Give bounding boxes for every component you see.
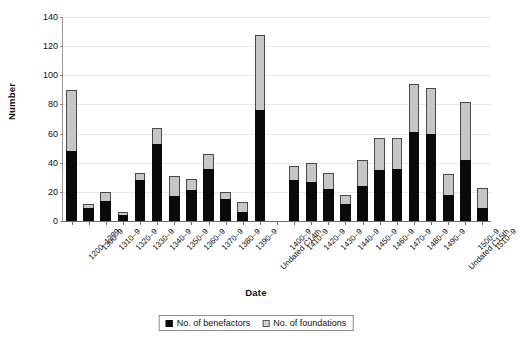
plot-area: 020406080100120140 1200–12991300–91310–9… xyxy=(62,17,491,222)
bar-slot xyxy=(220,17,231,221)
bar-slot xyxy=(306,17,317,221)
x-tick-mark xyxy=(448,221,449,225)
bar-slot xyxy=(289,17,300,221)
stacked-bar xyxy=(186,179,197,221)
stacked-bar xyxy=(306,163,317,221)
bar-segment-benefactors xyxy=(66,151,77,221)
bar-segment-benefactors xyxy=(392,169,403,221)
bar-slot xyxy=(374,17,385,221)
bar-segment-foundations xyxy=(135,173,146,180)
bar-segment-foundations xyxy=(443,174,454,194)
bar-slot xyxy=(203,17,214,221)
stacked-bar xyxy=(237,202,248,221)
bar-segment-benefactors xyxy=(152,144,163,221)
stacked-bar xyxy=(323,173,334,221)
x-tick-mark xyxy=(397,221,398,225)
x-tick-mark xyxy=(243,221,244,225)
bar-segment-foundations xyxy=(255,35,266,111)
bar-slot xyxy=(135,17,146,221)
bar-series-group xyxy=(63,17,491,221)
bar-slot xyxy=(409,17,420,221)
stacked-bar xyxy=(203,154,214,221)
bar-segment-benefactors xyxy=(220,199,231,221)
y-tick-label: 0 xyxy=(53,216,58,226)
x-tick-mark xyxy=(414,221,415,225)
stacked-bar xyxy=(152,128,163,221)
bar-segment-benefactors xyxy=(374,170,385,221)
stacked-bar xyxy=(66,90,77,221)
bar-segment-foundations xyxy=(323,173,334,189)
x-axis-title: Date xyxy=(0,287,512,298)
stacked-bar xyxy=(477,188,488,222)
bar-segment-foundations xyxy=(477,188,488,208)
bar-slot xyxy=(443,17,454,221)
bar-slot xyxy=(392,17,403,221)
bar-segment-benefactors xyxy=(443,195,454,221)
bar-segment-foundations xyxy=(392,138,403,169)
legend-label: No. of foundations xyxy=(273,318,346,328)
bar-segment-foundations xyxy=(409,84,420,132)
stacked-bar xyxy=(169,176,180,221)
x-tick-mark xyxy=(328,221,329,225)
stacked-bar xyxy=(340,195,351,221)
stacked-bar xyxy=(374,138,385,221)
y-tick-label: 80 xyxy=(48,99,58,109)
x-tick-mark xyxy=(89,221,90,225)
x-tick-mark xyxy=(345,221,346,225)
bar-segment-foundations xyxy=(220,192,231,199)
stacked-bar xyxy=(426,88,437,221)
legend-item: No. of benefactors xyxy=(166,318,251,328)
bar-slot xyxy=(100,17,111,221)
legend-swatch-grey xyxy=(262,320,269,327)
bar-segment-benefactors xyxy=(289,180,300,221)
x-tick-mark xyxy=(209,221,210,225)
bar-slot xyxy=(460,17,471,221)
x-tick-mark xyxy=(311,221,312,225)
y-tick-label: 140 xyxy=(43,12,58,22)
bar-slot xyxy=(152,17,163,221)
y-tick-mark xyxy=(60,221,63,222)
bar-slot xyxy=(186,17,197,221)
legend-item: No. of foundations xyxy=(262,318,346,328)
y-tick-label: 100 xyxy=(43,70,58,80)
y-tick-label: 60 xyxy=(48,129,58,139)
legend-label: No. of benefactors xyxy=(177,318,251,328)
bar-segment-benefactors xyxy=(323,189,334,221)
x-tick-mark xyxy=(140,221,141,225)
x-tick-mark xyxy=(226,221,227,225)
bar-slot xyxy=(83,17,94,221)
bar-slot xyxy=(357,17,368,221)
x-tick-mark xyxy=(465,221,466,225)
bar-slot xyxy=(169,17,180,221)
bar-segment-benefactors xyxy=(357,186,368,221)
bar-segment-benefactors xyxy=(255,110,266,221)
bar-slot xyxy=(477,17,488,221)
bar-segment-foundations xyxy=(426,88,437,133)
bar-slot xyxy=(323,17,334,221)
bar-segment-benefactors xyxy=(426,134,437,221)
bar-segment-benefactors xyxy=(186,190,197,221)
chart-legend: No. of benefactorsNo. of foundations xyxy=(159,315,354,331)
bar-segment-foundations xyxy=(186,179,197,191)
stacked-bar xyxy=(255,35,266,222)
x-tick-mark xyxy=(482,221,483,225)
x-tick-mark xyxy=(380,221,381,225)
bar-segment-foundations xyxy=(66,90,77,151)
stacked-bar xyxy=(289,166,300,221)
x-tick-mark xyxy=(294,221,295,225)
bar-segment-benefactors xyxy=(477,208,488,221)
bar-slot xyxy=(272,17,283,221)
x-tick-mark xyxy=(123,221,124,225)
stacked-bar xyxy=(357,160,368,221)
bar-segment-foundations xyxy=(203,154,214,169)
bar-segment-benefactors xyxy=(340,204,351,221)
stacked-bar xyxy=(460,102,471,221)
bar-segment-foundations xyxy=(357,160,368,186)
stacked-bar xyxy=(118,212,129,221)
bar-segment-foundations xyxy=(152,128,163,144)
bar-segment-foundations xyxy=(100,192,111,201)
stacked-bar xyxy=(409,84,420,221)
bar-segment-foundations xyxy=(374,138,385,170)
bar-segment-benefactors xyxy=(100,201,111,221)
